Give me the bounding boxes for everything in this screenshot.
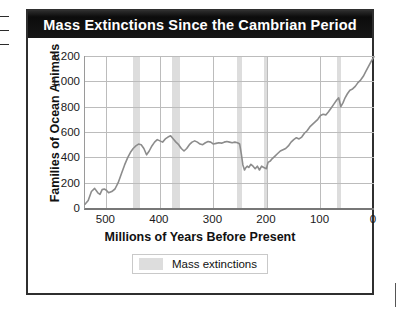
x-axis-ticks: 5004003002001000: [84, 210, 373, 230]
y-axis-tick-label: 600: [40, 126, 80, 138]
y-axis-tick-label: 1,000: [40, 75, 80, 87]
scan-artifact-line: [395, 283, 396, 307]
y-axis-tick-label: 0: [40, 202, 80, 214]
chart-title: Mass Extinctions Since the Cambrian Peri…: [43, 17, 356, 33]
mass-extinctions-swatch: [139, 258, 163, 270]
x-axis-tick-label: 100: [296, 213, 342, 225]
chart-title-bar: Mass Extinctions Since the Cambrian Peri…: [28, 11, 372, 38]
x-axis-tick-label: 300: [189, 213, 235, 225]
x-axis-tick-label: 500: [82, 213, 128, 225]
data-curve: [85, 56, 374, 208]
chart-legend: Mass extinctions: [132, 254, 268, 274]
y-axis-tick-label: 800: [40, 101, 80, 113]
x-axis-label: Millions of Years Before Present: [28, 230, 372, 244]
legend-label: Mass extinctions: [172, 258, 257, 270]
x-axis-tick-label: 0: [350, 213, 396, 225]
scan-artifact-dash: [0, 44, 9, 45]
scan-artifact-dash: [0, 16, 9, 17]
chart-body: Families of Ocean Animals 02004006008001…: [28, 38, 372, 293]
plot-inner: [85, 56, 374, 208]
x-axis-tick-label: 200: [243, 213, 289, 225]
plot-area: [84, 56, 374, 210]
y-axis-tick-label: 400: [40, 151, 80, 163]
y-axis-ticks: 02004006008001,0001,200: [38, 38, 80, 293]
chart-figure: Mass Extinctions Since the Cambrian Peri…: [26, 9, 374, 295]
x-axis-tick-label: 400: [136, 213, 182, 225]
y-axis-tick-label: 200: [40, 177, 80, 189]
y-axis-tick-label: 1,200: [40, 50, 80, 62]
scan-artifact-dash: [0, 30, 9, 31]
